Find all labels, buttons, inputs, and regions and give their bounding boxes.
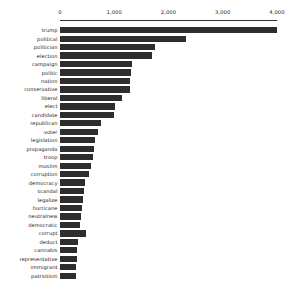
bar — [60, 213, 81, 219]
bar-row: deduct — [60, 238, 277, 246]
category-label: patriotism — [31, 273, 58, 279]
category-label: elect — [45, 103, 58, 109]
bar-row: neutralnew — [60, 212, 277, 220]
bar — [60, 120, 101, 126]
bar-row: legislation — [60, 136, 277, 144]
bar — [60, 52, 152, 58]
category-label: corrupt — [39, 230, 58, 236]
category-label: cannabis — [34, 247, 57, 253]
bar — [60, 146, 94, 152]
category-label: legalize — [38, 197, 58, 203]
bar — [60, 179, 85, 185]
bar — [60, 154, 93, 160]
x-tick-label: 3,000 — [215, 9, 230, 15]
bar-row: corruption — [60, 170, 277, 178]
category-label: democratic — [28, 222, 57, 228]
bar — [60, 239, 78, 245]
bar-row: representative — [60, 255, 277, 263]
bar-row: voter — [60, 128, 277, 136]
category-label: nation — [41, 78, 57, 84]
bar — [60, 61, 132, 67]
bar — [60, 230, 86, 236]
category-label: hurricane — [33, 205, 58, 211]
bar-row: propaganda — [60, 145, 277, 153]
bar-row: republican — [60, 119, 277, 127]
category-label: muslim — [39, 163, 58, 169]
bar — [60, 112, 114, 118]
bar — [60, 95, 122, 101]
x-tick-label: 2,000 — [161, 9, 176, 15]
bar — [60, 69, 131, 75]
bar — [60, 273, 76, 279]
bar-row: candidate — [60, 111, 277, 119]
bar-row: trump — [60, 26, 277, 34]
bar-row: corrupt — [60, 229, 277, 237]
bar — [60, 137, 95, 143]
category-label: corruption — [31, 171, 58, 177]
bar — [60, 36, 186, 42]
bar — [60, 196, 83, 202]
bar-row: politician — [60, 43, 277, 51]
bar-row: election — [60, 51, 277, 59]
bar-row: politic — [60, 68, 277, 76]
bar-row: immigrant — [60, 263, 277, 271]
bar-row: democratic — [60, 221, 277, 229]
bar-row: liberal — [60, 94, 277, 102]
category-label: campaign — [32, 61, 58, 67]
bar-row: scandal — [60, 187, 277, 195]
bar-row: troop — [60, 153, 277, 161]
bar-row: cannabis — [60, 246, 277, 254]
bar-row: conservative — [60, 85, 277, 93]
category-label: democracy — [29, 180, 58, 186]
bar — [60, 163, 91, 169]
bar — [60, 188, 84, 194]
plot-area: trumppoliticalpoliticianelectioncampaign… — [60, 26, 277, 280]
bar — [60, 247, 77, 253]
category-label: politician — [34, 44, 58, 50]
bar-row: elect — [60, 102, 277, 110]
category-label: representative — [20, 256, 58, 262]
category-label: immigrant — [31, 264, 58, 270]
bar-row: legalize — [60, 195, 277, 203]
bar-row: muslim — [60, 161, 277, 169]
category-label: liberal — [41, 95, 57, 101]
category-label: scandal — [38, 188, 58, 194]
bar-row: campaign — [60, 60, 277, 68]
bar — [60, 78, 130, 84]
bar-row: democracy — [60, 178, 277, 186]
category-label: election — [37, 53, 58, 59]
bar — [60, 171, 89, 177]
category-label: politic — [42, 70, 58, 76]
bar — [60, 86, 130, 92]
category-label: republican — [30, 120, 57, 126]
bar-row: nation — [60, 77, 277, 85]
category-label: candidate — [32, 112, 58, 118]
bar — [60, 44, 155, 50]
bar-row: patriotism — [60, 272, 277, 280]
x-tick-label: 0 — [58, 9, 61, 15]
x-tick-label: 1,000 — [107, 9, 122, 15]
category-label: troop — [44, 154, 58, 160]
bar-row: hurricane — [60, 204, 277, 212]
category-label: deduct — [40, 239, 58, 245]
category-label: legislation — [31, 137, 58, 143]
bar — [60, 129, 98, 135]
x-axis: 01,0002,0003,0004,000 — [60, 20, 277, 21]
category-label: conservative — [24, 86, 57, 92]
category-label: political — [37, 36, 57, 42]
bar — [60, 256, 77, 262]
category-label: trump — [42, 27, 58, 33]
bar — [60, 264, 76, 270]
category-label: neutralnew — [28, 213, 57, 219]
bar — [60, 103, 115, 109]
category-label: voter — [44, 129, 58, 135]
bar — [60, 222, 80, 228]
bar — [60, 205, 82, 211]
category-label: propaganda — [26, 146, 57, 152]
bar — [60, 27, 277, 33]
x-tick-label: 4,000 — [269, 9, 284, 15]
bar-chart: 01,0002,0003,0004,000 trumppoliticalpoli… — [0, 0, 296, 290]
bar-row: political — [60, 34, 277, 42]
